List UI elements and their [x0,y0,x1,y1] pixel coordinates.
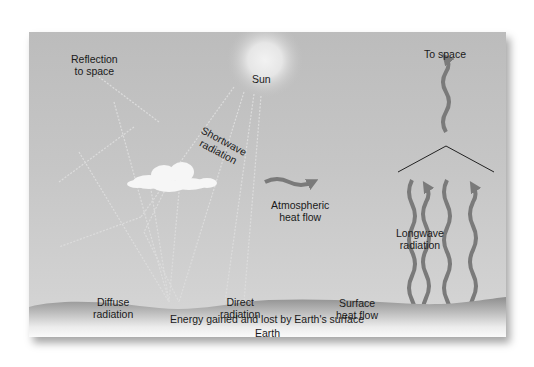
cloud-icon [127,162,217,192]
label-sun: Sun [252,73,271,85]
sun-icon [227,32,303,98]
label-reflection: Reflectionto space [71,53,118,77]
to-space-arrow [443,58,449,132]
label-earth: Earth [255,327,280,337]
energy-balance-diagram: Reflectionto space Sun Shortwaveradiatio… [29,32,506,337]
atmospheric-heat-arrow [265,179,313,185]
label-atmospheric: Atmosphericheat flow [271,199,329,223]
label-longwave: Longwaveradiation [396,227,444,251]
label-to-space: To space [424,48,466,60]
convergence-lines [398,146,494,172]
label-energy: Energy gained and lost by Earth's surfac… [170,313,364,325]
label-diffuse: Diffuseradiation [93,296,133,320]
